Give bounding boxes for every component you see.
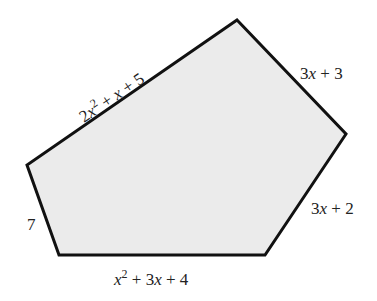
side-label-bottom-right: 3x + 2	[311, 199, 354, 218]
side-label-top-right: 3x + 3	[300, 64, 343, 83]
pentagon-shape	[27, 20, 346, 255]
pentagon-diagram: 2x2 + x + 5 3x + 3 3x + 2 x2 + 3x + 4 7	[0, 0, 377, 301]
side-label-bottom: x2 + 3x + 4	[113, 267, 189, 289]
side-label-left: 7	[27, 215, 36, 234]
